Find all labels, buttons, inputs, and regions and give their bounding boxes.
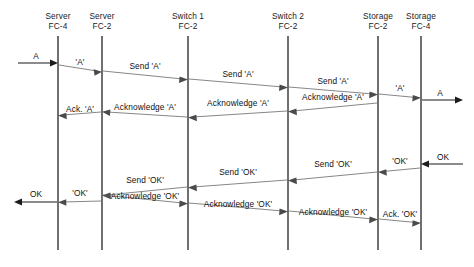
arrow-send-ok-2 <box>188 180 287 191</box>
label-ack-ok-2: Acknowledge 'OK' <box>204 200 272 209</box>
arrow-ack-a-2 <box>188 111 287 121</box>
label-ack-ok-1: Acknowledge 'OK' <box>111 192 179 201</box>
label-send-ok-3: Send 'OK' <box>314 160 352 169</box>
label-send-a-2: Send 'A' <box>222 70 253 79</box>
label-out-ok: OK <box>30 190 42 199</box>
label-a-1: 'A' <box>75 58 84 67</box>
arrow-ok-2 <box>58 199 101 206</box>
label-in-ok: OK <box>437 153 449 162</box>
label-a-2: 'A' <box>395 84 404 93</box>
arrow-ack-a-3 <box>288 103 377 115</box>
label-ack-a-2: Acknowledge 'A' <box>207 99 269 108</box>
arrow-a-2 <box>379 94 421 101</box>
diagram-canvas <box>0 0 474 267</box>
label-send-a-3: Send 'A' <box>317 77 348 86</box>
label-ack-a-short: Ack. 'A' <box>66 105 94 114</box>
label-ack-a-3: Acknowledge 'A' <box>302 93 364 102</box>
label-ack-ok-short: Ack. 'OK' <box>383 210 418 219</box>
sequence-diagram: Server FC-4 Server FC-2 Switch 1 FC-2 Sw… <box>0 0 474 267</box>
arrow-ok-1 <box>378 168 420 176</box>
arrow-out-ok <box>14 199 57 206</box>
label-ack-ok-3: Acknowledge 'OK' <box>299 208 367 217</box>
label-ok-1: 'OK' <box>392 157 408 166</box>
label-send-ok-2: Send 'OK' <box>219 168 257 177</box>
arrow-send-ok-3 <box>288 172 377 184</box>
label-send-a-1: Send 'A' <box>129 62 160 71</box>
label-out-a: A <box>437 89 443 98</box>
label-send-ok-1: Send 'OK' <box>126 176 164 185</box>
arrow-send-a-2 <box>189 79 288 91</box>
arrow-send-a-1 <box>103 71 188 83</box>
arrow-ack-ok-short <box>379 219 421 227</box>
label-ok-2: 'OK' <box>72 189 88 198</box>
label-ack-a-1: Acknowledge 'A' <box>114 103 176 112</box>
label-in-a: A <box>33 52 39 61</box>
